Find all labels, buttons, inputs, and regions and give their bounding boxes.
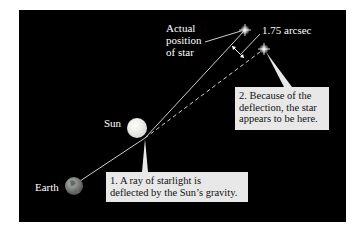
arcsec-label: 1.75 arcsec	[262, 24, 311, 36]
actual-position-line-1: Actual	[166, 22, 201, 34]
callout-2-pointer	[266, 52, 292, 87]
sun-label: Sun	[104, 117, 121, 129]
arcsec-leader	[240, 34, 260, 55]
actual-position-line-3: of star	[166, 46, 201, 58]
sun-icon	[127, 118, 147, 138]
callout-1-line-1: 1. A ray of starlight is	[110, 175, 244, 187]
earth-icon	[65, 177, 83, 195]
callout-box-1: 1. A ray of starlight is deflected by th…	[106, 172, 248, 202]
apparent-star-icon	[258, 43, 270, 55]
callout-2-line-1: 2. Because of the	[239, 90, 325, 102]
callout-2-line-3: appears to be here.	[239, 113, 325, 125]
callout-box-2: 2. Because of the deflection, the star a…	[235, 87, 329, 130]
actual-position-label: Actual position of star	[166, 22, 201, 58]
callout-1-line-2: deflected by the Sun’s gravity.	[110, 187, 244, 199]
earth-label: Earth	[35, 181, 59, 193]
callout-1-pointer	[142, 139, 148, 172]
actual-position-line-2: position	[166, 34, 201, 46]
callout-2-line-2: deflection, the star	[239, 102, 325, 114]
